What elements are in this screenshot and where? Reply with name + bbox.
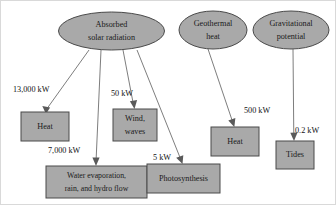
node-absorbed-solar-radiation[interactable]: Absorbed solar radiation xyxy=(59,12,165,50)
ellipse-shape xyxy=(179,11,247,49)
node-geothermal-heat[interactable]: Geothermal heat xyxy=(179,11,247,49)
source-nodes-layer: Absorbed solar radiation Geothermal heat… xyxy=(59,11,330,50)
arrow-head-icon xyxy=(92,158,99,166)
node-heat-geothermal[interactable]: Heat xyxy=(211,127,259,156)
edge-label-7000-kw: 7,000 kW xyxy=(48,146,81,155)
edge-label-5-kw: 5 kW xyxy=(153,153,171,162)
edge-line xyxy=(208,49,233,123)
node-label-line1: Heat xyxy=(37,122,53,131)
arrow-head-icon xyxy=(228,118,235,127)
node-water-evaporation[interactable]: Water evaporation, rain, and hydro flow xyxy=(46,166,147,198)
edge-label-500-kw: 500 kW xyxy=(244,106,270,115)
node-label-line2: solar radiation xyxy=(88,33,135,42)
edge-flow-water-evaporation: 7,000 kW xyxy=(48,50,101,166)
edge-label-02-kw: 0.2 kW xyxy=(295,126,319,135)
node-label-line2: waves xyxy=(125,127,145,136)
node-label-line2: potential xyxy=(277,32,306,41)
ellipse-shape xyxy=(59,12,165,50)
node-gravitational-potential[interactable]: Gravitational potential xyxy=(253,11,329,49)
node-wind-waves[interactable]: Wind, waves xyxy=(113,109,157,141)
arrow-head-icon xyxy=(130,100,137,109)
node-label-line1: Absorbed xyxy=(96,20,128,29)
node-photosynthesis[interactable]: Photosynthesis xyxy=(147,164,220,193)
node-label-line1: Water evaporation, xyxy=(67,171,126,180)
node-tides[interactable]: Tides xyxy=(276,141,314,169)
diagram-canvas: 13,000 kW 7,000 kW 50 kW 5 kW 500 kW xyxy=(1,1,336,205)
edge-line xyxy=(46,50,89,110)
edges-layer: 13,000 kW 7,000 kW 50 kW 5 kW 500 kW xyxy=(13,49,319,166)
node-label-line1: Geothermal xyxy=(194,19,233,28)
arrow-head-icon xyxy=(176,155,183,164)
edge-label-50-kw: 50 kW xyxy=(111,89,133,98)
edge-flow-tides: 0.2 kW xyxy=(290,49,319,141)
edge-flow-wind-waves: 50 kW xyxy=(111,50,137,109)
node-label-line1: Photosynthesis xyxy=(159,174,208,183)
edge-line xyxy=(96,50,101,162)
node-heat-solar[interactable]: Heat xyxy=(21,112,69,141)
ellipse-shape xyxy=(253,11,329,49)
node-label-line2: heat xyxy=(206,32,220,41)
node-label-line1: Heat xyxy=(227,137,243,146)
edge-line xyxy=(293,49,294,137)
node-label-line1: Gravitational xyxy=(269,19,313,28)
edge-line xyxy=(137,50,181,160)
node-label-line1: Wind, xyxy=(125,114,145,123)
node-label-line1: Tides xyxy=(286,150,304,159)
edge-flow-heat-geothermal: 500 kW xyxy=(208,49,270,127)
edge-flow-heat-solar: 13,000 kW xyxy=(13,50,89,114)
energy-flow-diagram: 13,000 kW 7,000 kW 50 kW 5 kW 500 kW xyxy=(0,0,336,205)
edge-flow-photosynthesis: 5 kW xyxy=(137,50,183,164)
node-label-line2: rain, and hydro flow xyxy=(65,184,129,193)
edge-label-13000-kw: 13,000 kW xyxy=(13,85,50,94)
